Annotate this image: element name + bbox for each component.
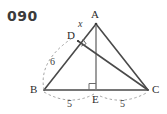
right-angle-marker-E	[89, 84, 96, 91]
vertex-label-D: D	[67, 30, 75, 41]
vertex-label-E: E	[92, 94, 99, 105]
measure-label-AD: x	[78, 19, 82, 29]
measure-label-BE: 5	[67, 99, 72, 109]
geometry-figure: 090 A B C D E x 6 5 5	[0, 0, 167, 114]
vertex-dot-A	[95, 23, 98, 26]
vertex-label-C: C	[152, 84, 159, 95]
measure-arc-BD	[43, 37, 74, 90]
vertex-label-A: A	[91, 9, 99, 20]
measure-label-BD: 6	[50, 57, 55, 67]
geometry-diagram	[0, 0, 167, 114]
vertex-dot-D	[77, 40, 79, 42]
measure-label-EC: 5	[120, 99, 125, 109]
vertex-label-B: B	[30, 84, 37, 95]
segment-DC	[78, 41, 148, 90]
segment-AC	[96, 24, 148, 90]
